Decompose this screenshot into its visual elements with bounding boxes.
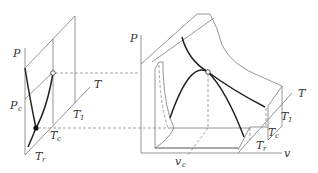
pc-label-sub: c [18,105,22,113]
t1-label-sub-left: 1 [80,114,84,122]
melting-curve [25,68,36,128]
pvt-diagram: P T P c T 1 T c T r [0,0,318,173]
v-axis-label: v [284,147,291,160]
solid-slab-front-curve [163,72,174,128]
vc-projection-dashed [188,128,208,155]
solid-slab-bottom-curve [155,128,174,148]
critical-point-marker-right [206,70,211,75]
t-axis-label-right: T [298,87,307,100]
pt-projection-panel: P T P c T 1 T c T r [9,16,103,164]
t-axis-label-left: T [94,78,103,91]
surface-top-back-edge [141,14,197,64]
sublimation-curve [28,128,36,147]
vaporization-curve [36,73,53,128]
tr-label-sub-left: r [42,156,46,164]
tc-label-sub-left: c [57,135,61,143]
right-face-top [268,86,282,106]
t-axis-right [238,93,292,153]
vc-label-main: v [175,155,182,168]
vc-label-sub: c [182,161,186,169]
saturation-dome [170,70,244,137]
tr-label-sub-right: r [263,145,267,153]
triple-point-marker [33,125,38,130]
pc-label-main: P [9,99,18,112]
t1-label-sub-right: 1 [288,116,292,124]
tc-label-sub-right: c [275,132,279,140]
pvt-surface-panel: P T v v c T 1 T c T r [129,14,307,169]
p-axis-label-right: P [129,32,138,45]
critical-point-marker-left [51,71,56,76]
plane-top-edge [25,16,75,68]
surface-gas-outline [210,14,282,86]
p-axis-label-left: P [12,47,21,60]
